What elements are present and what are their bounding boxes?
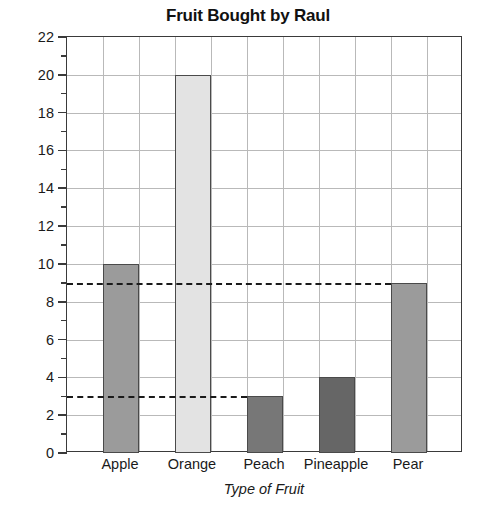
bar-peach	[247, 396, 283, 453]
y-tick-label: 6	[46, 332, 54, 348]
gridline-vertical	[247, 37, 248, 451]
bar-chart: Fruit Bought by Raul Number of Fruits 02…	[0, 0, 496, 517]
y-tick-minor	[61, 244, 67, 245]
y-tick-label: 20	[38, 67, 54, 83]
y-axis-label: Number of Fruits	[6, 0, 28, 58]
y-tick-label: 18	[38, 105, 54, 121]
y-tick-minor	[61, 131, 67, 132]
x-tick-label-peach: Peach	[243, 456, 284, 472]
plot-area: 0246810121416182022	[66, 36, 462, 452]
y-tick-major	[58, 150, 67, 152]
x-tick-label-apple: Apple	[101, 456, 138, 472]
gridline-vertical	[427, 37, 428, 451]
gridline-horizontal	[67, 75, 461, 76]
x-tick-label-pear: Pear	[393, 456, 424, 472]
y-tick-major	[58, 263, 67, 265]
gridline-horizontal	[67, 113, 461, 114]
y-tick-major	[58, 74, 67, 76]
y-tick-major	[58, 112, 67, 114]
reference-line-3	[67, 396, 247, 398]
y-tick-label: 12	[38, 218, 54, 234]
y-tick-minor	[61, 433, 67, 434]
gridline-horizontal	[67, 226, 461, 227]
y-tick-minor	[61, 206, 67, 207]
y-tick-label: 16	[38, 142, 54, 158]
bar-apple	[103, 264, 139, 453]
y-tick-major	[58, 377, 67, 379]
y-tick-label: 22	[38, 29, 54, 45]
y-tick-major	[58, 301, 67, 303]
bar-pear	[391, 283, 427, 453]
gridline-vertical	[283, 37, 284, 451]
reference-line-9	[67, 283, 391, 285]
y-tick-label: 10	[38, 256, 54, 272]
gridline-vertical	[139, 37, 140, 451]
y-tick-label: 8	[46, 294, 54, 310]
gridline-vertical	[211, 37, 212, 451]
y-tick-major	[58, 452, 67, 454]
y-tick-minor	[61, 358, 67, 359]
y-tick-major	[58, 36, 67, 38]
y-tick-minor	[61, 55, 67, 56]
y-tick-minor	[61, 93, 67, 94]
y-tick-label: 4	[46, 369, 54, 385]
y-tick-major	[58, 414, 67, 416]
bar-pineapple	[319, 377, 355, 453]
y-tick-major	[58, 225, 67, 227]
x-tick-label-orange: Orange	[168, 456, 216, 472]
y-tick-label: 0	[46, 445, 54, 461]
gridline-horizontal	[67, 150, 461, 151]
y-tick-label: 14	[38, 180, 54, 196]
y-tick-major	[58, 187, 67, 189]
y-tick-minor	[61, 320, 67, 321]
y-tick-label: 2	[46, 407, 54, 423]
y-tick-minor	[61, 169, 67, 170]
gridline-vertical	[355, 37, 356, 451]
chart-title: Fruit Bought by Raul	[0, 6, 496, 26]
x-axis-label: Type of Fruit	[66, 481, 462, 497]
x-tick-label-pineapple: Pineapple	[304, 456, 369, 472]
gridline-horizontal	[67, 188, 461, 189]
y-tick-major	[58, 339, 67, 341]
